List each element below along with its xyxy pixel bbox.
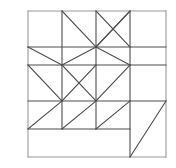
figure-background xyxy=(0,0,176,168)
geometric-pattern-figure xyxy=(0,0,176,168)
figure-canvas xyxy=(0,0,176,168)
